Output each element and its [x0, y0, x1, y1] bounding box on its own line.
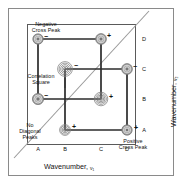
x-axis-title-text: Wavenumber, — [44, 162, 90, 171]
x-axis-title: Wavenumber, ν₁ — [44, 162, 94, 171]
y-tick-c: C — [139, 66, 149, 72]
annotation-negative-cross-peak: Negative Cross Peak — [17, 21, 75, 33]
peak-D-C — [122, 64, 133, 75]
annotation-positive-cross-peak: Positive Cross Peak — [105, 138, 161, 150]
peak-C-D — [96, 34, 107, 45]
y-tick-a: A — [139, 127, 149, 133]
y-tick-b: B — [139, 96, 149, 102]
peak-sign-B-A: + — [72, 123, 76, 130]
peak-sign-C-D: + — [107, 32, 111, 39]
peak-sign-D-C: − — [133, 63, 137, 70]
peak-A-D — [33, 34, 43, 44]
peak-sign-A-D: − — [44, 33, 48, 40]
x-tick-c: C — [96, 146, 106, 152]
peak-sign-A-B: − — [44, 92, 48, 99]
y-axis-title: Wavenumber, ν₂ — [169, 76, 178, 127]
x-tick-d: D — [122, 146, 132, 152]
peak-D-A — [122, 125, 132, 135]
annotation-no-diagonal-peaks: No Diagonal Peaks — [12, 122, 48, 140]
peak-A-B — [32, 93, 43, 104]
x-tick-b: B — [60, 146, 70, 152]
x-axis-title-sub: ν₁ — [90, 165, 94, 171]
y-axis-title-text: Wavenumber, — [169, 81, 178, 127]
x-tick-a: A — [33, 146, 43, 152]
y-tick-d: D — [139, 36, 149, 42]
peak-sign-D-A: + — [134, 124, 138, 131]
peak-sign-B-C: − — [74, 62, 78, 69]
correlation-spectrum-figure: − + − − − + + + Negative Cross Peak Corr… — [0, 0, 182, 184]
annotation-correlation-square: Correlation Square — [13, 73, 69, 85]
peak-B-A — [60, 125, 71, 136]
y-axis-title-sub: ν₂ — [172, 76, 178, 80]
peak-sign-C-B: + — [109, 93, 113, 100]
